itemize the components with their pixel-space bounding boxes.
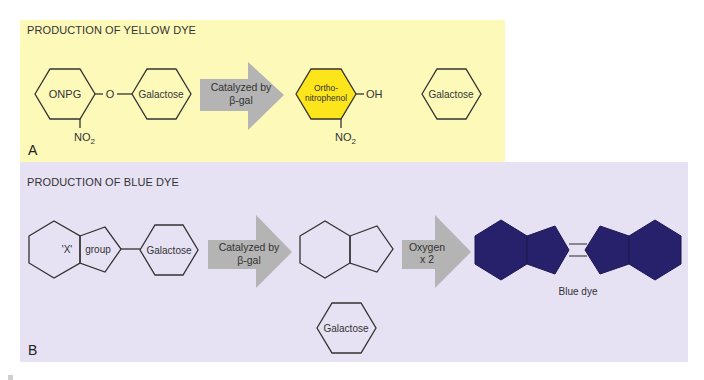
group-label: group xyxy=(85,244,111,255)
arrow-b-line2: β-gal xyxy=(237,254,261,266)
nitro-group-label: NO2 xyxy=(74,131,96,146)
onpg-label: ONPG xyxy=(49,88,81,100)
galactose-label-a: Galactose xyxy=(138,89,183,100)
corner-marker xyxy=(8,375,13,380)
orthonitrophenol-label-1: Ortho- xyxy=(314,83,338,93)
blue-dye-label: Blue dye xyxy=(559,286,598,297)
blue-dye-pentagon-right xyxy=(585,226,629,274)
arrow-a-line1: Catalyzed by xyxy=(211,81,272,93)
x-label: 'X' xyxy=(62,244,73,255)
released-galactose-label-b: Galactose xyxy=(323,323,368,334)
orthonitrophenol-label-2: nitrophenol xyxy=(305,93,347,103)
oxygen-arrow-line2: x 2 xyxy=(420,253,434,265)
arrow-a-line2: β-gal xyxy=(229,94,253,106)
oxygen-arrow-line1: Oxygen xyxy=(409,241,445,253)
indole-pentagon xyxy=(350,226,393,272)
released-galactose-label-a: Galactose xyxy=(428,89,473,100)
product-nitro-label: NO2 xyxy=(335,131,357,146)
arrow-b-line1: Catalyzed by xyxy=(219,241,280,253)
indole-hexagon xyxy=(300,221,350,278)
blue-dye-hexagon-right xyxy=(629,220,681,280)
blue-dye-hexagon-left xyxy=(475,220,527,280)
reaction-diagram: ONPG O Galactose NO2 Catalyzed by β-gal … xyxy=(0,0,704,380)
galactose-label-b: Galactose xyxy=(146,245,191,256)
hydroxyl-label: OH xyxy=(366,88,383,100)
oxygen-linker-label: O xyxy=(106,88,115,100)
blue-dye-pentagon-left xyxy=(527,226,569,274)
